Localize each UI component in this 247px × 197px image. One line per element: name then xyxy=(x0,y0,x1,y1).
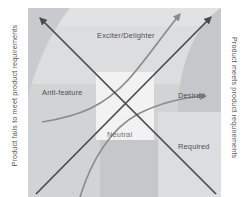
zone-label-exciter-delighter: Exciter/Delighter xyxy=(97,32,155,39)
zone-label-neutral: Neutral xyxy=(107,131,132,138)
zone-label-desired: Desired xyxy=(178,92,205,99)
plot-area: Exciter/Delighter Anti-feature Desired N… xyxy=(28,8,221,197)
zone-label-anti-feature: Anti-feature xyxy=(42,89,83,96)
zone-label-required: Required xyxy=(178,143,210,150)
band-lower-right-light xyxy=(158,112,221,197)
axis-label-right: Product meets product requirements xyxy=(230,3,237,193)
axis-label-left: Product fails to meet product requiremen… xyxy=(11,1,18,191)
band-lower-mid-dark xyxy=(100,140,158,197)
kano-model-figure: Product fails to meet product requiremen… xyxy=(0,0,247,197)
